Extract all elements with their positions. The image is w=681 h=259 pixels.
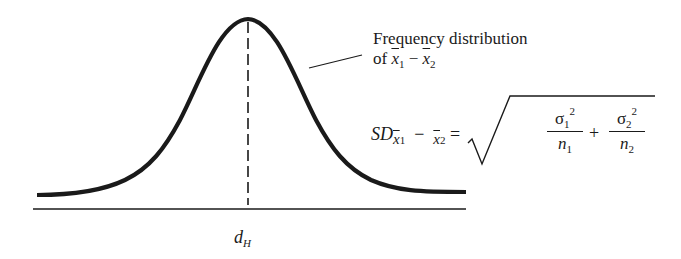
sigma-2-sup: 2	[632, 105, 638, 117]
h-sub: H	[243, 237, 251, 249]
n-2: n	[620, 134, 629, 153]
sigma-2: σ	[617, 109, 626, 128]
axis-label-dh: dH	[234, 227, 251, 253]
sigma-1: σ	[555, 109, 564, 128]
fraction-term-2: σ22 n2	[609, 105, 645, 155]
lhs-x1: x	[393, 131, 400, 147]
sigma-2-sub: 2	[626, 118, 632, 130]
term1-denominator: n1	[547, 132, 583, 155]
annotation-line-2: of x1 − x2	[373, 49, 436, 74]
minus-sign: −	[409, 49, 419, 68]
annotation-pointer-line	[309, 55, 362, 68]
sigma-1-sup: 2	[570, 105, 576, 117]
term2-numerator: σ22	[609, 105, 645, 132]
n-1: n	[558, 134, 567, 153]
x1-bar: x	[391, 49, 399, 68]
x1-sub: 1	[399, 58, 405, 70]
n-2-sub: 2	[629, 143, 635, 155]
plus-sign: +	[589, 123, 599, 143]
annotation-of: of	[373, 49, 391, 68]
formula-lhs: SDx1 − x2 =	[371, 124, 460, 150]
sigma-1-sub: 1	[564, 118, 570, 130]
x2-bar: x	[423, 49, 431, 68]
lhs-x1-sub: 1	[400, 134, 406, 146]
d-symbol: d	[234, 227, 243, 247]
term2-denominator: n2	[609, 132, 645, 155]
lhs-minus: −	[414, 124, 424, 144]
term1-numerator: σ12	[547, 105, 583, 132]
lhs-x2-sub: 2	[440, 134, 446, 146]
plus-text: +	[589, 123, 599, 143]
lhs-x2: x	[433, 131, 440, 147]
sd-symbol: SD	[371, 124, 393, 144]
equals-sign: =	[450, 124, 460, 144]
x2-sub: 2	[430, 58, 436, 70]
annotation-line-1: Frequency distribution	[373, 29, 527, 49]
n-1-sub: 1	[567, 143, 573, 155]
annotation-text: Frequency distribution	[373, 29, 527, 48]
fraction-term-1: σ12 n1	[547, 105, 583, 155]
